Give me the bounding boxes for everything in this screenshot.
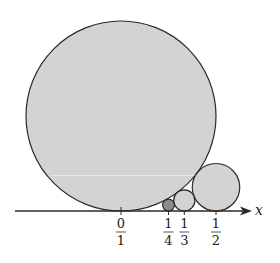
tick-numerator: 1 [180, 216, 188, 231]
tick-numerator: 0 [117, 216, 125, 231]
tick-denominator: 4 [164, 233, 172, 248]
tick-1-2: 1 2 [211, 211, 221, 248]
tick-1-4: 1 4 [164, 211, 174, 248]
tick-0-1: 0 1 [116, 207, 126, 248]
circle-0-1 [26, 21, 216, 211]
circle-1-4 [163, 199, 175, 211]
tick-numerator: 1 [164, 216, 172, 231]
tick-denominator: 2 [212, 233, 220, 248]
ford-circles-diagram: x 0 1 1 4 1 3 1 2 [0, 0, 280, 263]
circle-1-2 [192, 164, 240, 212]
x-axis-label: x [255, 202, 263, 218]
circle-1-3 [174, 190, 195, 211]
tick-denominator: 1 [117, 233, 125, 248]
tick-numerator: 1 [212, 216, 220, 231]
tick-1-3: 1 3 [179, 211, 189, 248]
tick-denominator: 3 [180, 233, 188, 248]
